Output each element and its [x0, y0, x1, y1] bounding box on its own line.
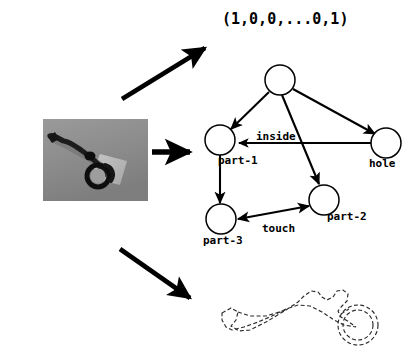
contour-ring-tangent	[341, 309, 349, 314]
contour-inner-edge	[238, 310, 286, 316]
contour-outline	[222, 290, 356, 331]
node-label-part-1: part-1	[218, 154, 258, 167]
arrow-to-contour	[120, 249, 190, 298]
photograph-svg	[43, 119, 148, 201]
node-hole[interactable]	[371, 128, 401, 158]
figure-canvas: (1,0,0,...0,1)	[0, 0, 418, 355]
contour-ring-inner	[343, 310, 373, 340]
node-label-part-3: part-3	[203, 234, 243, 247]
contour-ring-outer	[338, 305, 378, 345]
node-part-3[interactable]	[206, 204, 236, 234]
node-part-1[interactable]	[205, 125, 235, 155]
photo-tool-joint	[85, 152, 96, 161]
feature-vector-label: (1,0,0,...0,1)	[222, 10, 348, 28]
edge-root-part1	[231, 92, 269, 129]
node-label-hole: hole	[369, 157, 396, 170]
source-image-photograph	[43, 119, 148, 201]
arrow-to-feature-vector	[122, 48, 205, 99]
dashed-tool-contour	[222, 290, 378, 345]
node-root[interactable]	[265, 65, 295, 95]
edge-part3-part2-touch	[238, 206, 309, 219]
edge-root-hole	[293, 89, 375, 134]
edge-label-touch: touch	[262, 222, 295, 235]
photo-tool-ring-hole	[91, 169, 106, 184]
edge-label-inside: inside	[256, 130, 296, 143]
graph-nodes	[205, 65, 401, 234]
node-label-part-2: part-2	[327, 210, 367, 223]
